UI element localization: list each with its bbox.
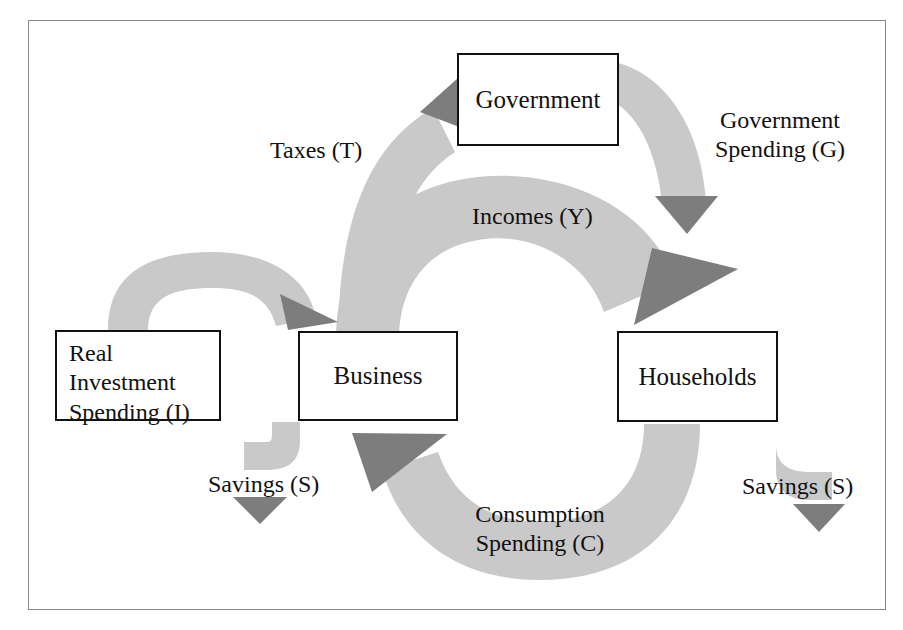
node-households-label: Households <box>638 363 756 391</box>
label-taxes: Taxes (T) <box>270 136 362 165</box>
node-real-investment-label: Real Investment Spending (I) <box>69 339 219 427</box>
node-business[interactable]: Business <box>298 331 458 421</box>
government-spending-arrowhead <box>655 196 718 234</box>
node-government[interactable]: Government <box>457 53 619 146</box>
node-real-investment[interactable]: Real Investment Spending (I) <box>55 330 221 421</box>
label-incomes: Incomes (Y) <box>472 202 593 231</box>
savings-business-arrowhead <box>233 497 287 524</box>
node-households[interactable]: Households <box>617 331 778 422</box>
real-investment-band <box>108 252 316 330</box>
savings-business-band <box>244 422 300 470</box>
label-savings-households: Savings (S) <box>742 472 853 501</box>
node-government-label: Government <box>476 86 601 114</box>
incomes-arrowhead <box>634 248 738 325</box>
label-savings-business: Savings (S) <box>208 470 319 499</box>
savings-households-arrowhead <box>793 504 845 532</box>
label-government-spending: Government Spending (G) <box>690 106 870 164</box>
diagram-canvas: Government Business Households Real Inve… <box>0 0 903 630</box>
node-business-label: Business <box>334 362 423 390</box>
label-consumption: Consumption Spending (C) <box>440 500 640 558</box>
